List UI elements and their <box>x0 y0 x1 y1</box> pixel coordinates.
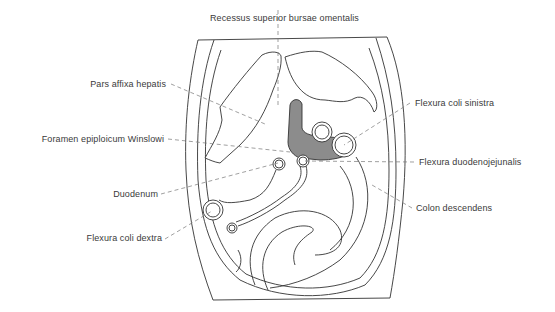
descending-colon-inner <box>270 157 368 288</box>
spiral-inner <box>263 226 313 290</box>
flexura-dextra-inner <box>206 203 220 217</box>
label-flexura-duodenojejunalis: Flexura duodenojejunalis <box>419 157 521 167</box>
anatomical-figure: Recessus superior bursae omentalis Pars … <box>0 0 555 312</box>
label-recessus-superior: Recessus superior bursae omentalis <box>210 13 359 23</box>
label-colon-descendens: Colon descendens <box>416 203 492 213</box>
label-flexura-coli-dextra: Flexura coli dextra <box>60 233 162 243</box>
liver-left <box>205 52 281 163</box>
transverse-colon-inner <box>315 125 329 139</box>
leader-colon-descendens <box>372 185 412 208</box>
mesentery-loop <box>219 170 276 203</box>
small-circle-inner <box>229 225 235 231</box>
leader-flexura-sinistra <box>344 103 410 145</box>
leader-duodenum <box>161 163 278 194</box>
label-duodenum: Duodenum <box>100 189 158 199</box>
duodenum-inner <box>275 160 283 168</box>
label-pars-affixa-hepatis: Pars affixa hepatis <box>78 79 166 89</box>
jejunum-loop-2 <box>236 166 301 222</box>
label-flexura-coli-sinistra: Flexura coli sinistra <box>415 98 494 108</box>
anatomy-drawing <box>0 0 555 312</box>
label-foramen-epiploicum: Foramen epiploicum Winslowi <box>20 134 164 144</box>
